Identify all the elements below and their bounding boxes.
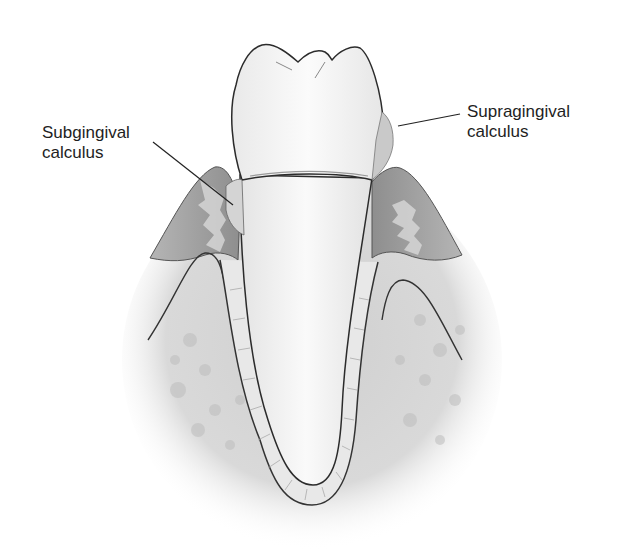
label-line: Supragingival xyxy=(467,102,570,122)
tooth-illustration xyxy=(0,0,624,549)
tooth-crown xyxy=(232,45,384,180)
leader-line-supragingival xyxy=(398,114,460,126)
label-supragingival-calculus: Supragingival calculus xyxy=(467,102,570,142)
label-line: Subgingival xyxy=(42,123,130,143)
label-subgingival-calculus: Subgingival calculus xyxy=(42,123,130,163)
calculus-diagram: Subgingival calculus Supragingival calcu… xyxy=(0,0,624,549)
label-line: calculus xyxy=(42,143,130,163)
label-line: calculus xyxy=(467,122,570,142)
